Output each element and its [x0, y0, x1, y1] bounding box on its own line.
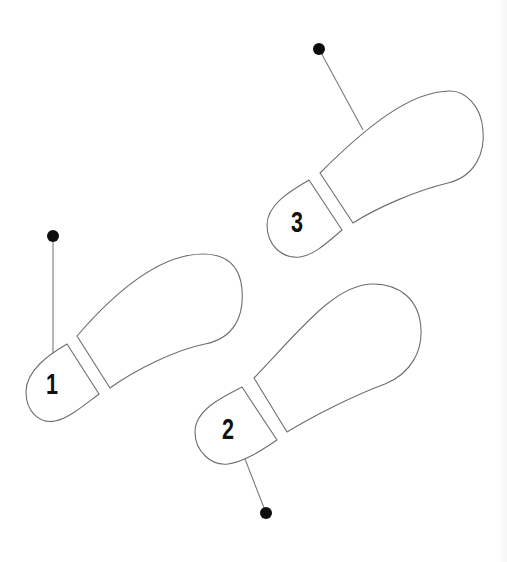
leader-line-3	[319, 49, 363, 130]
footsteps-diagram: 1 2 3	[0, 0, 507, 562]
sole-front-3	[320, 91, 483, 223]
step-number-2: 2	[217, 412, 239, 446]
sole-front-2	[254, 284, 421, 432]
right-edge-shade	[499, 0, 507, 562]
step-number-1: 1	[41, 367, 63, 401]
footsteps-svg	[0, 0, 507, 562]
sole-front-1	[77, 254, 242, 388]
step-number-3: 3	[286, 205, 308, 239]
pin-dot-3	[313, 43, 325, 55]
pin-dot-2	[260, 507, 272, 519]
pin-dot-1	[47, 230, 59, 242]
leader-line-2	[245, 459, 266, 513]
